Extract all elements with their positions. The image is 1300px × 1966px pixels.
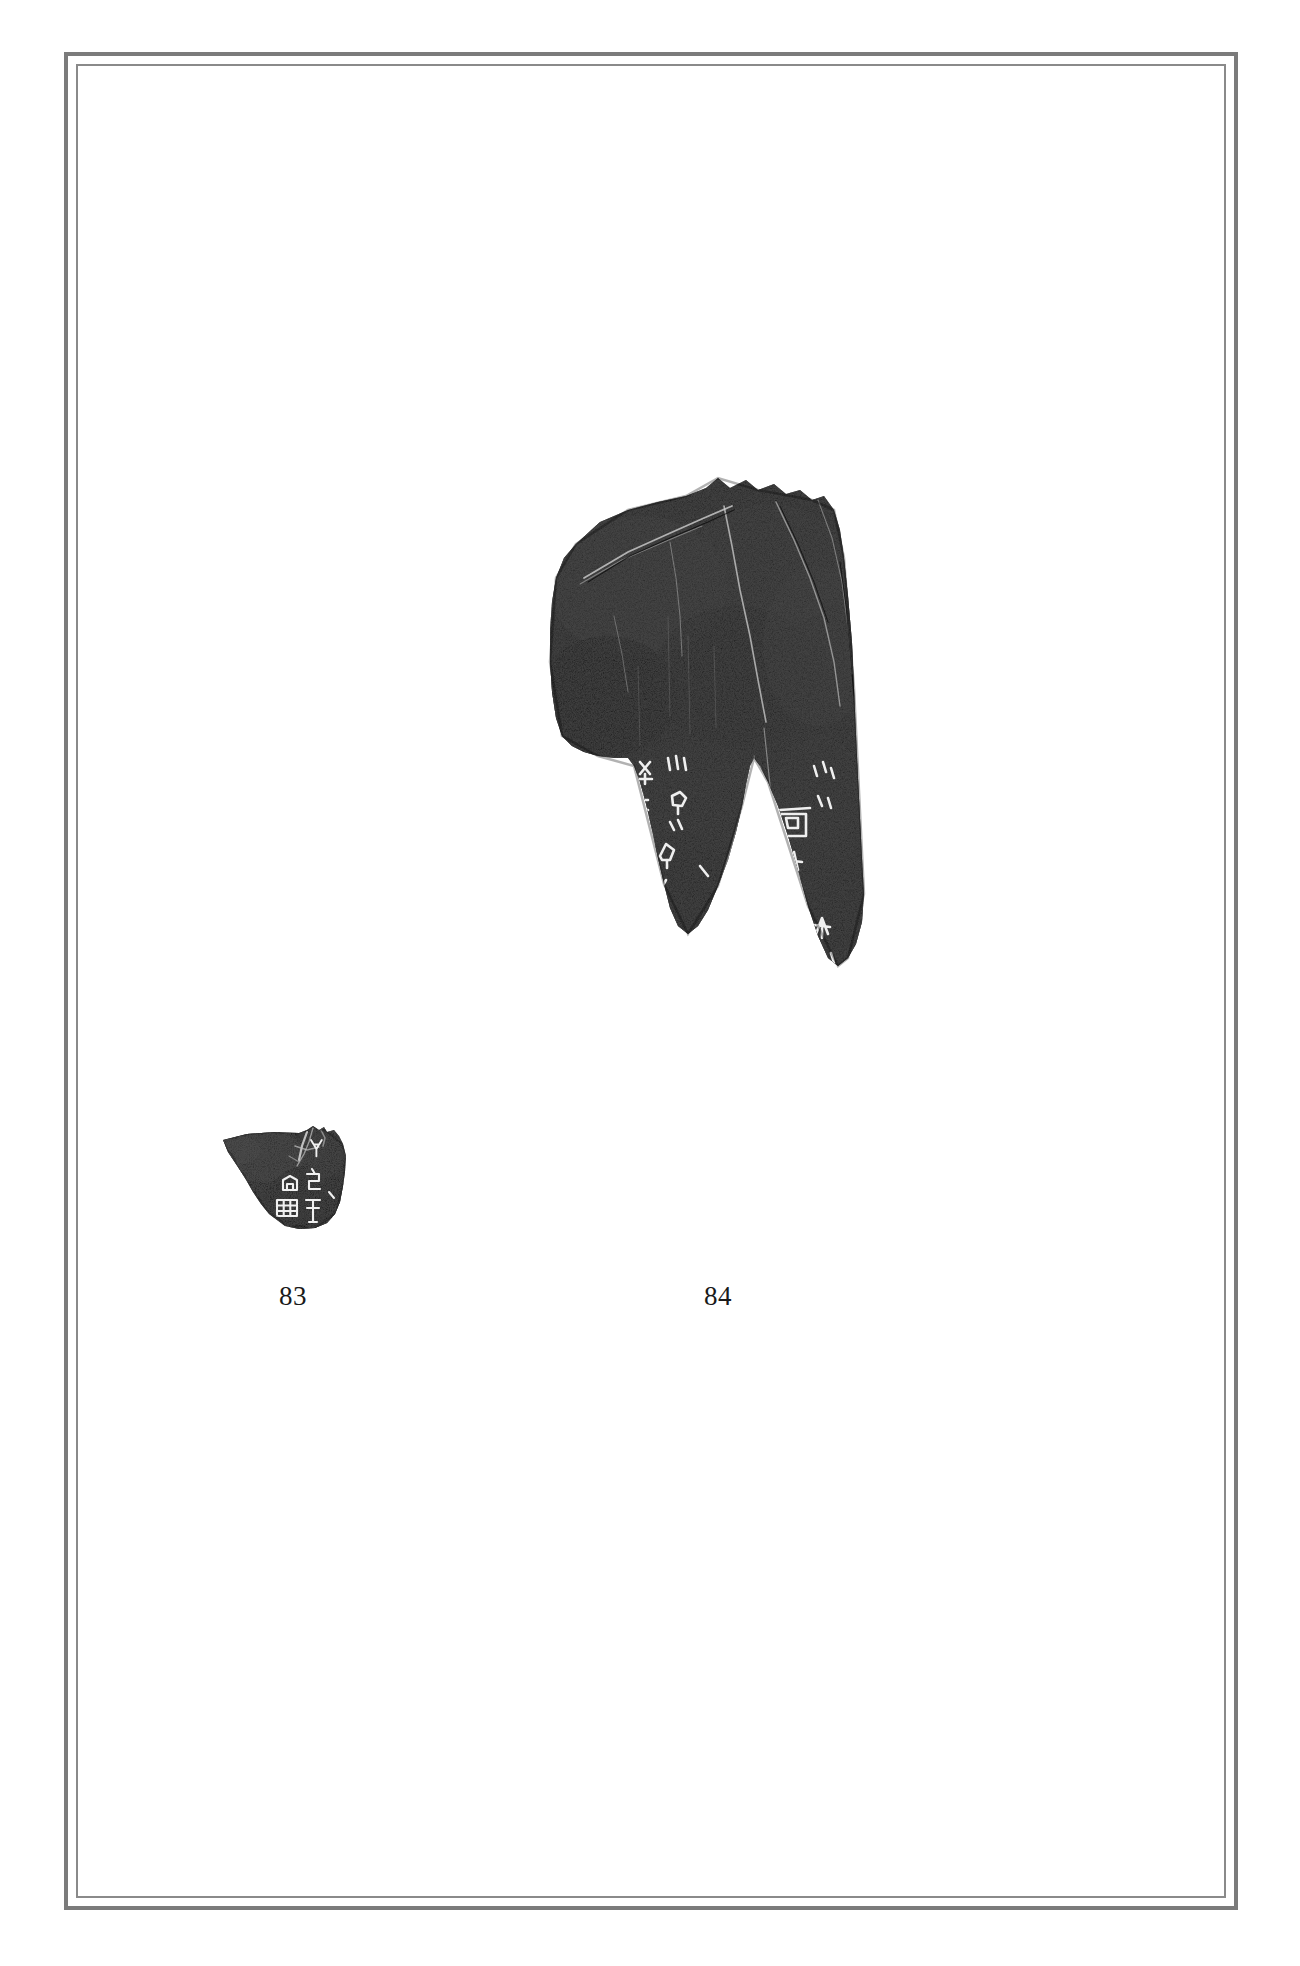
rubbing-84-graphic	[518, 466, 878, 1056]
figure-84	[518, 466, 878, 1056]
oracle-bone-rubbing-83	[203, 1116, 383, 1246]
rubbing-83-graphic	[203, 1116, 383, 1246]
figure-83	[203, 1116, 383, 1246]
plate-page: 83	[0, 0, 1300, 1966]
figure-caption-83: 83	[203, 1281, 383, 1312]
figure-caption-84: 84	[628, 1281, 808, 1312]
plate-content-area: 83	[78, 66, 1224, 1896]
oracle-bone-rubbing-84	[518, 466, 878, 1056]
